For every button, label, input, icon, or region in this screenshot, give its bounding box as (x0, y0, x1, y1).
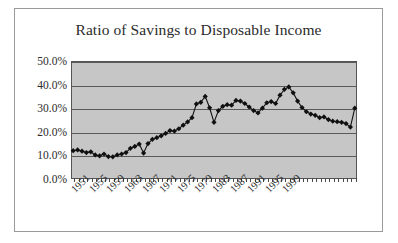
y-axis-tick-label: 40.0% (15, 79, 67, 91)
data-point-marker (119, 151, 124, 156)
data-point-marker (115, 152, 120, 157)
y-axis-tick-label: 50.0% (15, 55, 67, 67)
data-series-line (71, 61, 357, 179)
data-point-marker (238, 99, 243, 104)
data-point-marker (326, 117, 331, 122)
data-point-marker (308, 112, 313, 117)
data-point-marker (194, 101, 199, 106)
data-point-marker (141, 150, 146, 155)
chart-title: Ratio of Savings to Disposable Income (15, 21, 382, 39)
data-point-marker (84, 150, 89, 155)
data-point-marker (154, 135, 159, 140)
data-point-marker (313, 113, 318, 118)
data-point-marker (273, 101, 278, 106)
data-point-marker (137, 141, 142, 146)
chart-frame: Ratio of Savings to Disposable Income 50… (14, 8, 383, 232)
data-point-marker (159, 133, 164, 138)
data-point-marker (335, 119, 340, 124)
data-point-marker (110, 154, 115, 159)
data-point-marker (97, 153, 102, 158)
y-axis-tick-label: 20.0% (15, 126, 67, 138)
data-point-marker (317, 115, 322, 120)
data-point-marker (75, 147, 80, 152)
data-point-marker (352, 106, 357, 111)
data-point-marker (71, 148, 76, 153)
y-axis-tick-label: 30.0% (15, 102, 67, 114)
plot-wrapper (71, 61, 357, 179)
data-point-marker (106, 154, 111, 159)
data-point-marker (339, 120, 344, 125)
x-axis-labels: 1951195519591963196719711975197919831987… (71, 185, 357, 235)
y-axis-tick-label: 0.0% (15, 173, 67, 185)
data-point-marker (207, 105, 212, 110)
data-point-marker (101, 151, 106, 156)
data-point-marker (172, 128, 177, 133)
data-point-marker (132, 144, 137, 149)
y-axis-labels: 50.0%40.0%30.0%20.0%10.0%0.0% (15, 61, 67, 179)
data-point-marker (79, 149, 84, 154)
data-point-marker (321, 114, 326, 119)
data-point-marker (269, 99, 274, 104)
data-point-marker (211, 120, 216, 125)
y-axis-tick-label: 10.0% (15, 149, 67, 161)
data-point-marker (330, 119, 335, 124)
data-point-marker (225, 102, 230, 107)
